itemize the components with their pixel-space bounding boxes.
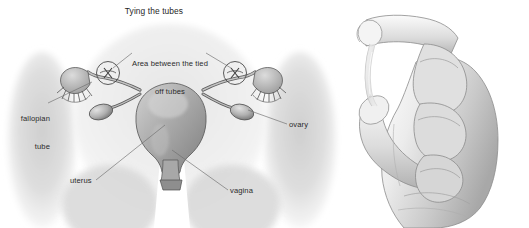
label-fallopian-tube: fallopian tube (6, 95, 50, 170)
label-fallopian-line1: fallopian (6, 114, 50, 123)
label-area-line1: Area between the tied (111, 59, 229, 68)
hand-illustration (353, 15, 498, 228)
label-vagina: vagina (230, 186, 253, 195)
label-ovary: ovary (289, 120, 308, 129)
medical-illustration-artwork (0, 0, 529, 228)
label-area-between-tied-off-tubes: Area between the tied off tubes (111, 40, 229, 115)
figure-title: Tying the tubes (94, 7, 214, 16)
label-fallopian-line2: tube (6, 142, 50, 151)
label-area-line2: off tubes (111, 87, 229, 96)
illustration-canvas: Tying the tubes Area between the tied of… (0, 0, 529, 228)
label-uterus: uterus (70, 176, 92, 185)
